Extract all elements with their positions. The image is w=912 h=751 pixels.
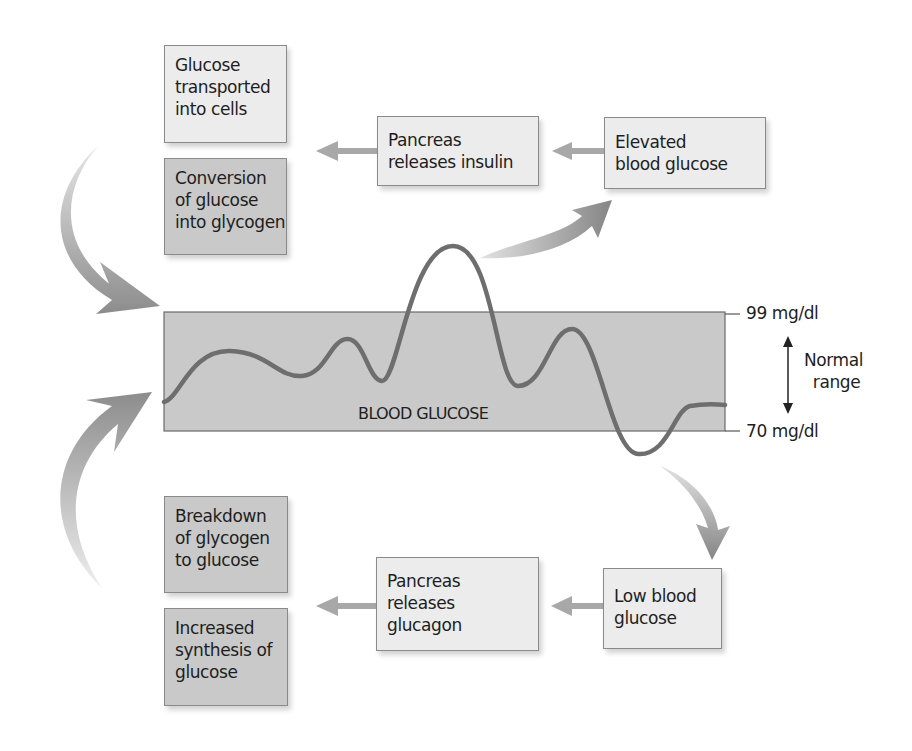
arrow-elevated-to-pancreas-icon xyxy=(552,142,604,160)
arrow-low-to-pancreas-icon xyxy=(551,596,603,616)
normal-range-label: Normal range xyxy=(804,349,863,393)
upper-limit-label: 99 mg/dl xyxy=(746,302,818,324)
glucose-synthesis-box: Increased synthesis of glucose xyxy=(164,608,288,706)
band-label: BLOOD GLUCOSE xyxy=(358,404,488,423)
pancreas-glucagon-box: Pancreas releases glucagon xyxy=(376,557,539,651)
glycogen-conversion-box: Conversion of glucose into glycogen xyxy=(164,158,287,255)
glucose-transported-box: Glucose transported into cells xyxy=(164,45,287,143)
elevated-glucose-box: Elevated blood glucose xyxy=(604,117,766,189)
curved-arrow-to-elevated-icon xyxy=(480,200,612,258)
arrow-pancreas-to-glycogen-icon xyxy=(316,596,376,616)
glycogen-breakdown-box: Breakdown of glycogen to glucose xyxy=(164,496,288,593)
pancreas-insulin-box: Pancreas releases insulin xyxy=(377,116,539,186)
low-glucose-box: Low blood glucose xyxy=(603,568,722,649)
arrow-pancreas-to-effects-icon xyxy=(316,141,377,161)
lower-limit-label: 70 mg/dl xyxy=(746,420,818,442)
curved-arrow-into-band-icon xyxy=(60,146,160,314)
curved-arrow-from-glycogen-icon xyxy=(60,392,152,588)
normal-range-arrow-icon xyxy=(783,336,793,414)
curved-arrow-to-low-icon xyxy=(660,466,730,560)
